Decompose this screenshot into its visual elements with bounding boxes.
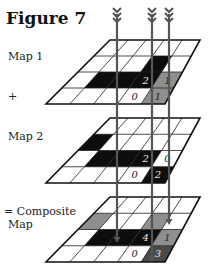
cell-value: 2 — [142, 153, 149, 164]
cell-value: 0 — [132, 248, 139, 259]
map-label: Map 1 — [8, 50, 43, 63]
map-label: Map 2 — [8, 130, 43, 143]
figure-7-diagram: Figure 7 Map 1+Map 2= CompositeMap 21012… — [0, 0, 210, 269]
cell-value: 3 — [155, 248, 161, 259]
cell-value: 4 — [142, 232, 149, 243]
fletching-icon — [113, 8, 121, 12]
cell-value: 0 — [132, 91, 139, 102]
cell-value: 1 — [155, 91, 161, 102]
figure-title: Figure 7 — [6, 8, 86, 28]
fletching-icon — [165, 8, 173, 12]
map-labels: Map 1+Map 2= CompositeMap — [4, 50, 76, 231]
cell-value: 2 — [154, 169, 161, 180]
map-grid-1: 2002 — [46, 118, 200, 183]
cell-value: 1 — [164, 232, 170, 243]
cell-value: 0 — [132, 169, 139, 180]
map-grid-0: 2101 — [46, 40, 200, 104]
map-stack: 210120024103 — [46, 40, 200, 262]
map-label: + — [8, 90, 17, 103]
map-label: = Composite — [4, 205, 76, 218]
cell-value: 2 — [142, 75, 149, 86]
map-label: Map — [8, 218, 33, 231]
fletching-icon — [148, 8, 156, 12]
